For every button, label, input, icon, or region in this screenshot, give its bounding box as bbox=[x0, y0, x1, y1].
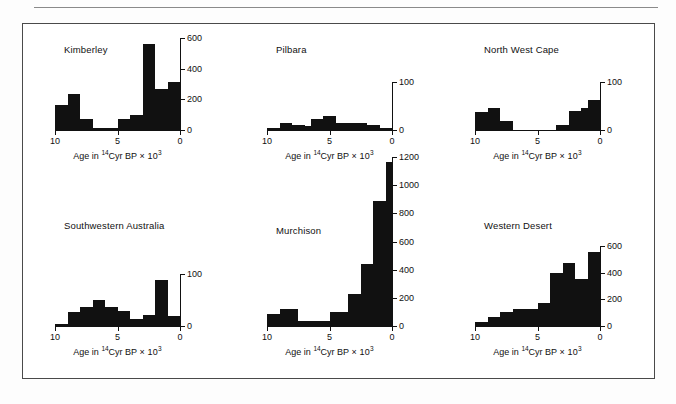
x-tick-north-west-cape-5 bbox=[538, 131, 539, 135]
y-tick-label-north-west-cape-0: 0 bbox=[607, 125, 612, 135]
top-horizontal-rule bbox=[34, 7, 658, 8]
x-tick-label-north-west-cape-0: 0 bbox=[597, 136, 602, 146]
y-tick-label-murchison-0: 0 bbox=[399, 321, 404, 331]
y-tick-label-murchison-800: 800 bbox=[399, 208, 414, 218]
x-tick-label-kimberley-0: 0 bbox=[177, 136, 182, 146]
x-tick-southwestern-australia-5 bbox=[118, 327, 119, 331]
y-tick-label-pilbara-0: 0 bbox=[399, 125, 404, 135]
y-tick-pilbara-100 bbox=[393, 82, 397, 83]
y-tick-label-southwestern-australia-0: 0 bbox=[187, 321, 192, 331]
y-tick-label-kimberley-400: 400 bbox=[187, 64, 202, 74]
y-tick-north-west-cape-0 bbox=[601, 130, 605, 131]
y-tick-label-southwestern-australia-100: 100 bbox=[187, 269, 202, 279]
y-tick-label-murchison-1200: 1200 bbox=[399, 152, 419, 162]
y-tick-kimberley-600 bbox=[181, 38, 185, 39]
x-tick-western-desert-5 bbox=[538, 327, 539, 331]
y-tick-label-murchison-400: 400 bbox=[399, 265, 414, 275]
x-tick-murchison-0 bbox=[392, 327, 393, 331]
panel-title-southwestern-australia: Southwestern Australia bbox=[64, 220, 164, 231]
panel-kimberley: Kimberley 10500200400600Age in 14Cyr BP … bbox=[35, 32, 235, 162]
panel-title-western-desert: Western Desert bbox=[484, 220, 552, 231]
x-tick-label-kimberley-10: 10 bbox=[50, 136, 60, 146]
x-tick-label-southwestern-australia-0: 0 bbox=[177, 332, 182, 342]
plot-area-murchison: 1050020040060080010001200Age in 14Cyr BP… bbox=[267, 157, 392, 326]
y-tick-pilbara-0 bbox=[393, 130, 397, 131]
histogram-bars-southwestern-australia bbox=[55, 274, 180, 326]
x-tick-pilbara-0 bbox=[392, 131, 393, 135]
x-tick-north-west-cape-10 bbox=[475, 131, 476, 135]
figure-frame: Kimberley 10500200400600Age in 14Cyr BP … bbox=[22, 23, 655, 379]
y-tick-southwestern-australia-100 bbox=[181, 274, 185, 275]
y-tick-murchison-400 bbox=[393, 270, 397, 271]
y-axis-line-north-west-cape bbox=[600, 82, 601, 131]
y-tick-murchison-1000 bbox=[393, 185, 397, 186]
x-tick-murchison-5 bbox=[330, 327, 331, 331]
y-tick-label-murchison-200: 200 bbox=[399, 293, 414, 303]
y-tick-north-west-cape-100 bbox=[601, 82, 605, 83]
y-tick-western-desert-200 bbox=[601, 299, 605, 300]
x-tick-label-kimberley-5: 5 bbox=[115, 136, 120, 146]
y-tick-label-western-desert-200: 200 bbox=[607, 294, 622, 304]
y-tick-label-pilbara-100: 100 bbox=[399, 77, 414, 87]
y-tick-western-desert-0 bbox=[601, 326, 605, 327]
x-axis-title-kimberley: Age in 14Cyr BP × 103 bbox=[73, 149, 161, 161]
panel-southwestern-australia: Southwestern Australia 10500100Age in 14… bbox=[35, 214, 235, 364]
x-tick-label-murchison-10: 10 bbox=[262, 332, 272, 342]
x-axis-title-western-desert: Age in 14Cyr BP × 103 bbox=[493, 345, 581, 357]
y-tick-western-desert-400 bbox=[601, 273, 605, 274]
y-axis-line-southwestern-australia bbox=[180, 274, 181, 327]
y-axis-line-western-desert bbox=[600, 246, 601, 327]
x-tick-pilbara-10 bbox=[267, 131, 268, 135]
y-tick-label-north-west-cape-100: 100 bbox=[607, 77, 622, 87]
x-tick-north-west-cape-0 bbox=[600, 131, 601, 135]
histogram-bars-murchison bbox=[267, 157, 392, 326]
x-tick-label-pilbara-5: 5 bbox=[327, 136, 332, 146]
plot-area-north-west-cape: 10500100Age in 14Cyr BP × 103 bbox=[475, 82, 600, 130]
x-tick-label-western-desert-0: 0 bbox=[597, 332, 602, 342]
x-tick-label-southwestern-australia-10: 10 bbox=[50, 332, 60, 342]
panel-pilbara: Pilbara 10500100Age in 14Cyr BP × 103 bbox=[247, 32, 447, 162]
x-tick-label-north-west-cape-10: 10 bbox=[470, 136, 480, 146]
plot-area-kimberley: 10500200400600Age in 14Cyr BP × 103 bbox=[55, 38, 180, 130]
y-tick-murchison-0 bbox=[393, 326, 397, 327]
y-tick-southwestern-australia-0 bbox=[181, 326, 185, 327]
x-tick-label-southwestern-australia-5: 5 bbox=[115, 332, 120, 342]
x-axis-title-north-west-cape: Age in 14Cyr BP × 103 bbox=[493, 149, 581, 161]
y-tick-kimberley-400 bbox=[181, 69, 185, 70]
x-tick-label-pilbara-10: 10 bbox=[262, 136, 272, 146]
x-axis-title-southwestern-australia: Age in 14Cyr BP × 103 bbox=[73, 345, 161, 357]
x-axis-title-murchison: Age in 14Cyr BP × 103 bbox=[285, 345, 373, 357]
x-tick-murchison-10 bbox=[267, 327, 268, 331]
y-tick-label-murchison-600: 600 bbox=[399, 237, 414, 247]
histogram-bars-pilbara bbox=[267, 82, 392, 130]
y-tick-label-kimberley-0: 0 bbox=[187, 125, 192, 135]
x-tick-label-murchison-5: 5 bbox=[327, 332, 332, 342]
x-tick-kimberley-10 bbox=[55, 131, 56, 135]
panel-title-north-west-cape: North West Cape bbox=[484, 44, 559, 55]
y-tick-murchison-200 bbox=[393, 298, 397, 299]
x-tick-western-desert-0 bbox=[600, 327, 601, 331]
plot-area-pilbara: 10500100Age in 14Cyr BP × 103 bbox=[267, 82, 392, 130]
y-tick-label-western-desert-400: 400 bbox=[607, 268, 622, 278]
y-tick-murchison-800 bbox=[393, 213, 397, 214]
x-tick-label-north-west-cape-5: 5 bbox=[535, 136, 540, 146]
y-axis-line-kimberley bbox=[180, 38, 181, 131]
y-tick-label-kimberley-200: 200 bbox=[187, 94, 202, 104]
y-tick-label-murchison-1000: 1000 bbox=[399, 180, 419, 190]
y-tick-murchison-1200 bbox=[393, 157, 397, 158]
x-tick-label-murchison-0: 0 bbox=[389, 332, 394, 342]
histogram-bar bbox=[506, 121, 512, 130]
panel-murchison: Murchison 1050020040060080010001200Age i… bbox=[247, 149, 447, 364]
panel-western-desert: Western Desert 10500200400600Age in 14Cy… bbox=[455, 214, 655, 364]
x-tick-southwestern-australia-0 bbox=[180, 327, 181, 331]
y-tick-western-desert-600 bbox=[601, 246, 605, 247]
y-tick-label-kimberley-600: 600 bbox=[187, 33, 202, 43]
histogram-bars-western-desert bbox=[475, 246, 600, 326]
y-tick-murchison-600 bbox=[393, 242, 397, 243]
y-tick-label-western-desert-0: 0 bbox=[607, 321, 612, 331]
y-tick-kimberley-0 bbox=[181, 130, 185, 131]
figure-page: Kimberley 10500200400600Age in 14Cyr BP … bbox=[0, 0, 676, 404]
x-tick-label-western-desert-5: 5 bbox=[535, 332, 540, 342]
x-tick-kimberley-5 bbox=[118, 131, 119, 135]
panel-title-pilbara: Pilbara bbox=[276, 44, 307, 55]
